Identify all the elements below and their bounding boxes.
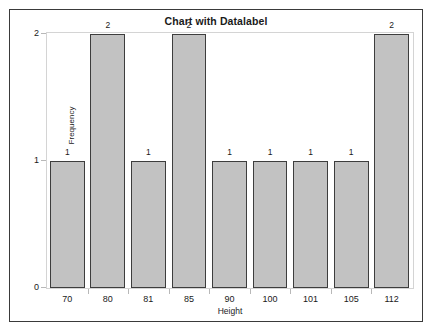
y-tick-label: 2 [21,29,39,38]
x-tick-mark [209,289,210,294]
bar-datalabel: 2 [88,21,128,30]
y-tick-label: 0 [21,283,39,292]
bar[interactable] [334,161,369,288]
bar[interactable] [90,34,125,288]
bar[interactable] [172,34,207,288]
x-tick-mark [371,289,372,294]
bar-datalabel: 1 [331,148,371,157]
plot-inner: Frequency 012 121211112 7080818590100101… [47,33,413,288]
x-tick-mark [169,289,170,294]
bar[interactable] [50,161,85,288]
bar-datalabel: 1 [128,148,168,157]
chart-title: Chart with Datalabel [10,15,422,27]
x-tick-mark [128,289,129,294]
bar-datalabel: 2 [372,21,412,30]
x-tick-label: 112 [367,295,417,304]
x-tick-mark [331,289,332,294]
bar-datalabel: 1 [291,148,331,157]
bar[interactable] [293,161,328,288]
x-axis-label: Height [46,306,414,316]
x-tick-mark [88,289,89,294]
y-tick-mark [41,160,46,161]
bar[interactable] [131,161,166,288]
bar-datalabel: 2 [169,21,209,30]
y-tick-mark [41,287,46,288]
y-tick-label: 1 [21,156,39,165]
bar[interactable] [374,34,409,288]
y-tick-mark [41,33,46,34]
plot-area: Frequency 012 121211112 7080818590100101… [46,32,414,289]
x-tick-mark [250,289,251,294]
chart-figure: Chart with Datalabel Frequency 012 12121… [9,9,423,322]
bar[interactable] [253,161,288,288]
bar-datalabel: 1 [210,148,250,157]
bar[interactable] [212,161,247,288]
y-axis-label: Frequency [67,81,76,171]
bar-datalabel: 1 [47,148,87,157]
x-tick-mark [290,289,291,294]
bar-datalabel: 1 [250,148,290,157]
